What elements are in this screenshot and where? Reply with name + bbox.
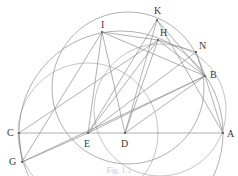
figure-canvas xyxy=(0,0,238,176)
point-label-E: E xyxy=(84,139,90,149)
point-marker-I xyxy=(101,31,103,33)
point-marker-A xyxy=(222,132,224,134)
point-label-H: H xyxy=(160,28,167,38)
point-marker-N xyxy=(195,51,197,53)
point-marker-E xyxy=(87,132,89,134)
segment-G-to-E xyxy=(22,133,88,162)
point-label-K: K xyxy=(154,6,161,16)
point-label-N: N xyxy=(199,41,206,51)
segment-I-to-H xyxy=(102,32,158,40)
point-marker-K xyxy=(156,19,158,21)
point-label-C: C xyxy=(7,128,14,138)
segment-D-to-I xyxy=(102,32,125,133)
segment-A-to-B xyxy=(205,76,223,133)
segment-G-to-B xyxy=(22,76,205,162)
circles-layer xyxy=(18,12,226,176)
point-marker-B xyxy=(204,75,206,77)
point-label-B: B xyxy=(210,70,217,80)
point-marker-C xyxy=(18,132,20,134)
geometry-figure: ABCDEGHIKN Fig. 1.1 xyxy=(0,0,238,176)
point-label-A: A xyxy=(227,129,234,139)
point-label-D: D xyxy=(121,139,128,149)
figure-caption: Fig. 1.1 xyxy=(0,166,238,175)
segment-D-to-B xyxy=(125,76,205,133)
point-marker-G xyxy=(21,161,23,163)
segment-H-to-N xyxy=(158,40,196,52)
point-marker-D xyxy=(124,132,126,134)
point-marker-H xyxy=(157,39,159,41)
circle-arc-B-to-A xyxy=(94,44,226,176)
point-label-I: I xyxy=(101,20,104,30)
